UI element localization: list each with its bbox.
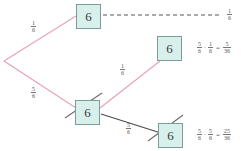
fraction-denominator: 6	[197, 47, 202, 54]
node-label: 6	[166, 41, 173, 57]
node-box-lower-right[interactable]: 6	[158, 123, 183, 148]
dashed-result-label: 1 6	[227, 8, 232, 22]
node-label: 6	[167, 128, 174, 144]
equation-right-fraction: 5 6	[208, 128, 213, 142]
edge-label-upper-branch: 1 6	[31, 20, 36, 34]
node-label: 6	[85, 9, 92, 25]
fraction-numerator: 25	[223, 128, 231, 134]
multiply-operator: ·	[204, 45, 206, 51]
fraction-denominator: 6	[227, 14, 232, 21]
equation-left-fraction: 5 6	[197, 128, 202, 142]
equation-result-fraction: 5 36	[223, 41, 231, 55]
node-box-top[interactable]: 6	[76, 4, 101, 29]
fraction-denominator: 6	[197, 134, 202, 141]
equation-top: 5 6 · 1 6 = 5 36	[196, 41, 232, 55]
equation-result-fraction: 25 36	[223, 128, 231, 142]
node-box-lower-left[interactable]: 6	[75, 100, 100, 125]
equals-sign: =	[216, 131, 220, 139]
fraction-denominator: 6	[120, 69, 125, 76]
fraction-denominator: 36	[223, 134, 231, 141]
edge-label-lower-branch: 5 6	[31, 86, 36, 100]
fraction-denominator: 36	[223, 47, 231, 54]
node-box-middle[interactable]: 6	[157, 36, 182, 61]
fraction-denominator: 6	[31, 92, 36, 99]
edge-lower-left-to-lower-right	[101, 114, 164, 134]
node-label: 6	[84, 105, 91, 121]
fraction-denominator: 6	[31, 26, 36, 33]
fraction-denominator: 6	[126, 128, 131, 135]
edge-label-bottom-branch: 5 6	[126, 122, 131, 136]
edge-root-to-top	[4, 16, 76, 61]
edge-root-to-lower-left	[4, 61, 76, 108]
diagram-canvas: 6 6 6 6 1 6 5 6 1 6 5 6 1 6 5 6 · 1	[0, 0, 241, 151]
fraction-denominator: 6	[208, 134, 213, 141]
equation-left-fraction: 5 6	[197, 41, 202, 55]
edge-label-middle-branch: 1 6	[120, 63, 125, 77]
multiply-operator: ·	[204, 132, 206, 138]
equation-right-fraction: 1 6	[208, 41, 213, 55]
equals-sign: =	[216, 44, 220, 52]
edge-lower-left-to-middle	[100, 61, 160, 108]
equation-bottom: 5 6 · 5 6 = 25 36	[196, 128, 232, 142]
fraction-denominator: 6	[208, 47, 213, 54]
